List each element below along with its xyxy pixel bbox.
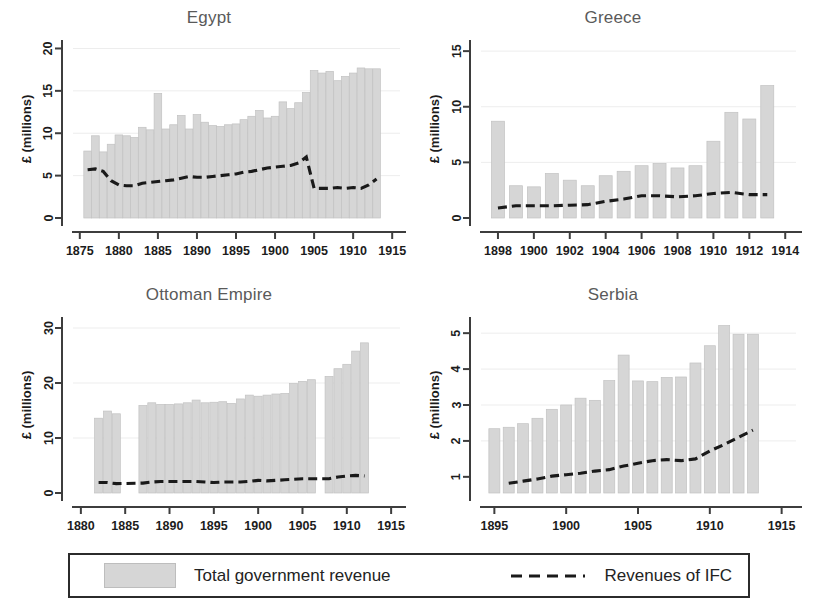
y-tick-label: 0 — [450, 214, 464, 221]
chart-svg-serbia: 1895190019051910191512345£ (millions) — [408, 307, 818, 545]
bar — [318, 73, 326, 218]
bar — [210, 402, 218, 493]
bar — [563, 180, 576, 218]
bar — [232, 124, 240, 218]
bar — [290, 384, 298, 493]
y-tick-label: 20 — [42, 376, 56, 390]
y-tick-label: 10 — [450, 100, 464, 114]
bar — [310, 71, 318, 218]
x-tick-label: 1905 — [289, 519, 317, 533]
bar — [365, 69, 373, 218]
chart-canvas-serbia: 1895190019051910191512345£ (millions) — [408, 307, 818, 545]
x-tick-label: 1895 — [480, 519, 508, 533]
y-tick-label: 10 — [42, 431, 56, 445]
y-tick-label: 3 — [450, 401, 464, 408]
bar — [224, 125, 232, 218]
bar — [581, 186, 594, 218]
bar — [491, 121, 504, 218]
bar — [357, 68, 365, 218]
bar — [92, 136, 100, 218]
x-tick-label: 1915 — [377, 519, 405, 533]
y-tick-label: 2 — [450, 437, 464, 444]
bar — [707, 141, 720, 218]
x-tick-label: 1910 — [339, 244, 367, 258]
y-tick-label: 4 — [450, 366, 464, 373]
bar — [112, 414, 120, 493]
bar — [342, 76, 350, 218]
chart-canvas-ottoman-empire: 188018851890189519001905191019150102030£… — [0, 307, 418, 545]
chart-canvas-greece: 1898190019021904190619081910191219140510… — [408, 30, 818, 270]
legend-label-total-revenue: Total government revenue — [194, 566, 391, 586]
x-tick-label: 1895 — [200, 519, 228, 533]
x-tick-label: 1900 — [520, 244, 548, 258]
chart-panel-serbia: Serbia 1895190019051910191512345£ (milli… — [408, 283, 818, 548]
bar — [154, 93, 162, 218]
bar — [166, 404, 174, 493]
bar — [599, 176, 612, 218]
x-tick-label: 1900 — [244, 519, 272, 533]
bar — [719, 326, 730, 493]
y-tick-label: 15 — [42, 84, 56, 98]
y-tick-label: 10 — [42, 126, 56, 140]
y-tick-label: 20 — [42, 41, 56, 55]
legend-dashed-line-swatch — [509, 566, 587, 586]
bar — [248, 116, 256, 218]
bar — [217, 126, 225, 218]
x-tick-label: 1908 — [664, 244, 692, 258]
x-tick-label: 1895 — [222, 244, 250, 258]
y-tick-label: 1 — [450, 473, 464, 480]
bar — [661, 377, 672, 493]
bar — [170, 125, 178, 218]
bar — [236, 399, 244, 493]
x-tick-label: 1915 — [378, 244, 406, 258]
bar — [361, 343, 369, 493]
legend-label-ifc-revenue: Revenues of IFC — [605, 566, 733, 586]
x-tick-label: 1880 — [105, 244, 133, 258]
bar — [201, 403, 209, 493]
figure-legend: Total government revenue Revenues of IFC — [68, 553, 750, 598]
bar — [123, 136, 131, 218]
x-tick-label: 1890 — [156, 519, 184, 533]
bar — [245, 395, 253, 493]
bar — [689, 166, 702, 218]
bar — [604, 381, 615, 493]
bar — [676, 377, 687, 493]
x-tick-label: 1875 — [66, 244, 94, 258]
bar — [162, 129, 170, 218]
legend-entry-total-revenue: Total government revenue — [104, 563, 391, 588]
chart-canvas-egypt: 1875188018851890189519001905191019150510… — [0, 30, 418, 270]
bar — [325, 376, 333, 493]
bar — [633, 381, 644, 493]
bar — [635, 166, 648, 218]
bar — [228, 403, 236, 493]
bar — [527, 187, 540, 218]
bar — [704, 346, 715, 493]
y-tick-label: 5 — [450, 330, 464, 337]
bar — [589, 400, 600, 493]
x-tick-label: 1890 — [183, 244, 211, 258]
bar — [254, 396, 262, 493]
bar — [281, 393, 289, 493]
bar — [509, 186, 522, 218]
y-tick-label: 15 — [450, 44, 464, 58]
x-tick-label: 1912 — [735, 244, 763, 258]
bar — [131, 137, 139, 218]
x-tick-label: 1898 — [484, 244, 512, 258]
bar — [185, 129, 193, 218]
bar — [561, 405, 572, 493]
bar — [352, 351, 360, 493]
bar — [326, 71, 334, 218]
bar — [307, 380, 315, 493]
bar — [298, 381, 306, 493]
bar — [193, 115, 201, 218]
x-tick-label: 1885 — [144, 244, 172, 258]
bar — [209, 126, 217, 218]
legend-entry-ifc-revenue: Revenues of IFC — [509, 566, 733, 586]
chart-title-serbia: Serbia — [408, 283, 818, 307]
bar — [647, 382, 658, 493]
bar — [263, 395, 271, 493]
x-tick-label: 1906 — [628, 244, 656, 258]
bar — [575, 398, 586, 493]
x-tick-label: 1900 — [552, 519, 580, 533]
bar — [178, 115, 186, 218]
